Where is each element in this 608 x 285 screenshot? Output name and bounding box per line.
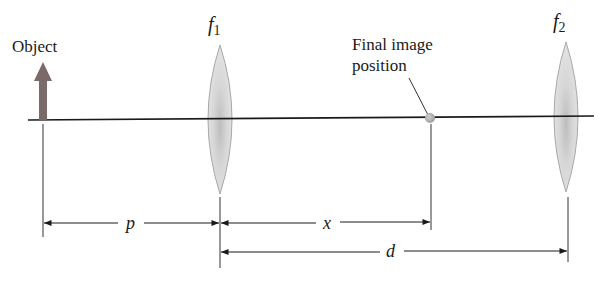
- object-label: Object: [12, 37, 58, 56]
- final-image-leader: [409, 78, 428, 115]
- final-image-label-line1: Final image: [352, 35, 433, 54]
- dimension-d-label: d: [386, 241, 396, 261]
- object-arrow-icon: [34, 62, 52, 120]
- lens2-label: f2: [553, 10, 566, 35]
- final-image-dot: [425, 113, 435, 123]
- dimension-x-label: x: [322, 213, 331, 233]
- lens1-sub: 1: [214, 23, 221, 38]
- lens2-sub: 2: [559, 20, 566, 35]
- dimension-p-label: p: [124, 213, 135, 233]
- optics-diagram: Object f1 f2 Final image position p x d: [0, 0, 608, 285]
- lens1-label: f1: [208, 13, 221, 38]
- final-image-label-line2: position: [352, 56, 407, 75]
- optical-axis: [28, 116, 594, 120]
